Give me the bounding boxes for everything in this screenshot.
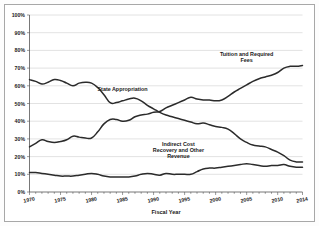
x-tick-label-1980: 1980 (85, 195, 98, 203)
y-tick-label-80: 80% (15, 47, 26, 53)
series-line-2 (30, 164, 303, 177)
y-tick-label-50: 50% (15, 101, 26, 107)
y-tick-label-100: 100% (12, 12, 26, 18)
y-tick-label-30: 30% (15, 136, 26, 142)
annotation-2-line-1: Recovery and Other (153, 147, 205, 153)
x-tick-labels: 1970197519801985199019952000200520102014 (23, 195, 309, 203)
x-axis-title: Fiscal Year (151, 209, 181, 215)
x-tick-label-1990: 1990 (147, 195, 160, 203)
annotation-2-line-0: Indirect Cost (162, 141, 195, 147)
y-tick-label-70: 70% (15, 65, 26, 71)
annotation-1-line-1: Fees (241, 57, 253, 63)
series-line-1 (30, 65, 303, 146)
x-tick-label-1995: 1995 (178, 195, 191, 203)
line-chart: 0%10%20%30%40%50%60%70%80%90%100% 197019… (0, 0, 319, 226)
x-tick-label-1970: 1970 (23, 195, 36, 203)
x-tick-label-2005: 2005 (240, 195, 253, 203)
y-tick-label-40: 40% (15, 118, 26, 124)
x-tick-label-2010: 2010 (271, 195, 284, 203)
y-tick-label-10: 10% (15, 171, 26, 177)
y-tick-label-90: 90% (15, 30, 26, 36)
y-tick-labels: 0%10%20%30%40%50%60%70%80%90%100% (12, 12, 26, 195)
y-tick-label-0: 0% (18, 189, 26, 195)
chart-figure: 0%10%20%30%40%50%60%70%80%90%100% 197019… (0, 0, 319, 226)
x-tick-label-2014: 2014 (296, 195, 309, 203)
axis-ticks (27, 15, 303, 195)
y-tick-label-60: 60% (15, 83, 26, 89)
x-tick-label-1975: 1975 (54, 195, 67, 203)
annotation-1-line-0: Tuition and Required (220, 51, 274, 57)
x-tick-label-2000: 2000 (209, 195, 222, 203)
y-tick-label-20: 20% (15, 154, 26, 160)
annotation-2-line-2: Revenue (167, 153, 189, 159)
x-tick-label-1985: 1985 (116, 195, 129, 203)
annotation-0-line-0: State Appropriation (98, 86, 148, 92)
